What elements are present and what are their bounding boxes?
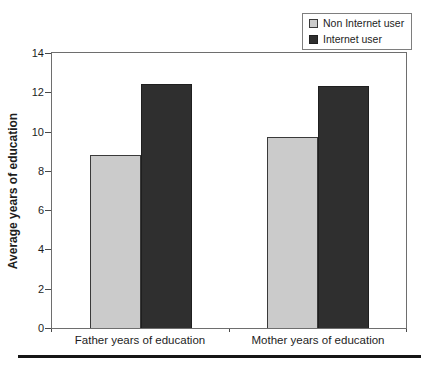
y-tick-label-14: 14: [18, 47, 44, 59]
legend-item-non-internet-user: Non Internet user: [309, 17, 404, 30]
x-tick-mark-1: [229, 329, 230, 332]
x-category-label-mother: Mother years of education: [218, 334, 418, 346]
legend-swatch-internet-user: [309, 35, 318, 44]
y-tick-mark-14: [45, 53, 51, 54]
y-tick-mark-6: [45, 210, 51, 211]
bottom-rule: [18, 355, 421, 358]
legend-label-internet-user: Internet user: [323, 33, 382, 46]
legend-item-internet-user: Internet user: [309, 33, 404, 46]
bar-internet-user-mother: [318, 86, 369, 328]
bar-non-internet-user-father: [90, 155, 141, 328]
y-tick-mark-10: [45, 132, 51, 133]
legend: Non Internet user Internet user: [302, 13, 412, 50]
y-tick-label-6: 6: [18, 204, 44, 216]
y-tick-mark-12: [45, 92, 51, 93]
x-tick-mark-2: [406, 329, 407, 332]
x-tick-mark-0: [51, 329, 52, 332]
y-tick-label-8: 8: [18, 165, 44, 177]
bar-group-mother: [229, 53, 406, 328]
y-tick-label-12: 12: [18, 86, 44, 98]
y-tick-label-10: 10: [18, 126, 44, 138]
bar-group-father: [52, 53, 229, 328]
plot-area: [51, 52, 407, 329]
y-tick-mark-2: [45, 289, 51, 290]
legend-swatch-non-internet-user: [309, 19, 318, 28]
legend-label-non-internet-user: Non Internet user: [323, 17, 404, 30]
bar-non-internet-user-mother: [267, 137, 318, 328]
bar-chart-figure: Non Internet user Internet user Average …: [0, 0, 431, 365]
y-tick-label-0: 0: [18, 322, 44, 334]
x-category-label-father: Father years of education: [40, 334, 240, 346]
y-tick-mark-4: [45, 249, 51, 250]
bar-internet-user-father: [141, 84, 192, 328]
y-tick-label-2: 2: [18, 283, 44, 295]
y-tick-mark-8: [45, 171, 51, 172]
y-tick-label-4: 4: [18, 243, 44, 255]
